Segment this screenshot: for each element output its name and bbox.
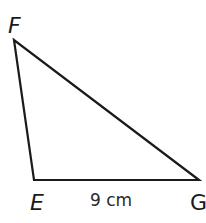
vertex-label-f: F — [8, 13, 21, 38]
vertex-label-g: G — [190, 190, 206, 215]
triangle-efg — [14, 40, 199, 180]
triangle-figure: F E G 9 cm — [0, 0, 206, 223]
vertex-label-e: E — [30, 190, 44, 215]
side-label-eg: 9 cm — [90, 190, 132, 210]
triangle-diagram: F E G 9 cm — [0, 0, 206, 223]
